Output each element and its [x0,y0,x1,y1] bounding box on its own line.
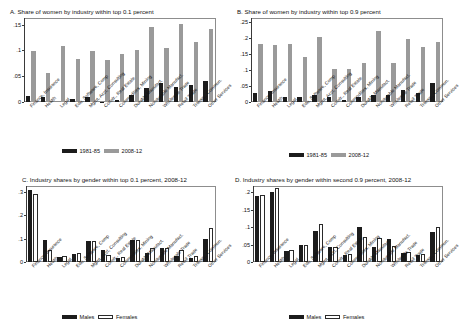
bar [342,100,346,102]
bar-group [251,18,266,102]
bar-group [26,186,41,262]
y-tick-label: .2 [232,35,248,41]
bar [100,102,104,103]
legend-item: Females [325,314,364,320]
legend-item: 1981-85 [62,148,100,154]
bar [255,196,259,262]
bar [26,96,30,102]
legend-label: Males [80,314,95,320]
legend-label: Males [307,314,322,320]
y-tick-label: .15 [234,207,250,213]
bar [72,254,76,262]
bar-group [24,18,39,102]
legend-swatch-hollow [98,315,113,320]
legend-item: Males [62,314,94,320]
bar-group [68,18,83,102]
panel-d-legend: MalesFemales [289,314,364,320]
y-tick-mark [24,262,27,263]
y-tick-label: .1 [5,47,21,53]
y-tick-label: 0 [234,259,250,265]
legend-swatch-dark [62,149,77,154]
y-tick-label: .1 [234,224,250,230]
y-tick-label: .15 [232,51,248,57]
bar [31,51,35,102]
y-tick-label: .05 [5,73,21,79]
y-tick-label: 0 [232,99,248,105]
legend-item: 2008-12 [331,152,369,158]
legend-item: Females [98,314,137,320]
bar [260,195,264,262]
y-tick-label: .2 [234,189,250,195]
bar [76,59,80,102]
legend-label: Females [343,314,364,320]
legend-label: 2008-12 [122,148,143,154]
legend-swatch-grey [331,153,346,158]
bar [115,100,119,102]
panel-a-title: A. Share of women by industry within top… [10,8,154,15]
bar [297,97,301,102]
bar-group [281,18,296,102]
legend-swatch-grey [104,149,119,154]
bar-group [295,18,310,102]
bar [258,44,262,102]
y-tick-label: .25 [232,19,248,25]
bar [28,190,32,262]
legend-item: 1981-85 [289,152,327,158]
legend-label: 2008-12 [349,152,370,158]
y-tick-mark [249,102,252,103]
legend-label: Females [116,314,137,320]
legend-item: Males [289,314,321,320]
legend-swatch-dark [289,153,304,158]
bar [33,194,37,262]
bar-group [70,186,85,262]
panel-c-title: C. Industry shares by gender within top … [22,176,187,183]
y-tick-label: .05 [232,83,248,89]
bar [61,46,65,102]
y-tick-mark [22,102,25,103]
panel-c: C. Industry shares by gender within top … [0,166,227,332]
bar [391,63,395,102]
bar-group [297,186,312,262]
y-tick-label: .3 [7,189,23,195]
y-tick-label: .2 [7,212,23,218]
y-tick-label: .05 [234,242,250,248]
y-tick-mark [251,262,254,263]
y-tick-label: .1 [7,236,23,242]
y-tick-label: 0 [5,99,21,105]
y-tick-label: .15 [5,22,21,28]
bar-group [54,18,69,102]
bar-group [55,186,70,262]
panel-c-legend: MalesFemales [62,314,137,320]
legend-swatch-dark [62,315,77,320]
panel-d-title: D. Industry shares by gender within seco… [235,176,411,183]
legend-swatch-hollow [325,315,340,320]
y-tick-label: 0 [7,259,23,265]
bar [253,93,257,102]
bar-group [282,186,297,262]
bar-group [253,186,268,262]
bar [362,63,366,102]
panel-b-title: B. Share of women by industry within top… [237,8,381,15]
panel-a-legend: 1981-852008-12 [62,148,142,154]
bar [288,44,292,102]
panel-b: B. Share of women by industry within top… [227,0,454,166]
legend-label: 1981-85 [307,152,328,158]
bar [105,60,109,102]
legend-item: 2008-12 [104,148,142,154]
panel-b-legend: 1981-852008-12 [289,152,369,158]
panel-d: D. Industry shares by gender within seco… [227,166,454,332]
panel-a: A. Share of women by industry within top… [0,0,227,166]
y-tick-label: .1 [232,67,248,73]
bar [303,57,307,102]
legend-label: 1981-85 [80,148,101,154]
legend-swatch-dark [289,315,304,320]
